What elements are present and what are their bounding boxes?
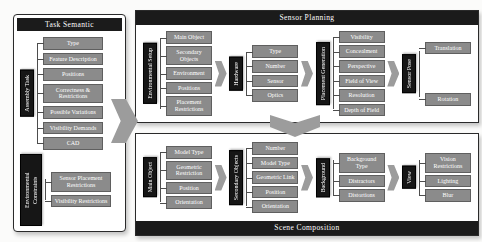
stage-secondary-objects: Secondary ObjectsNumberModel TypeGeometr… [229,142,298,213]
stage-sensor-pose: Sensor PoseTranslationRotation [402,42,471,106]
attribute-box-stack: NumberModel TypeGeometric LinkPositionOr… [252,142,298,213]
task-semantic-panel: Task Semantic Assembly TaskTypeFeature D… [13,14,126,232]
stage-background: BackgroundBackground TypeDistractorsDist… [316,153,385,201]
attribute-box-stack: TypeNumberSensorOptics [252,45,298,101]
attribute-box-field-of-view: Field of View [339,75,385,88]
attribute-box-sensor: Sensor [252,75,298,88]
attribute-box-orientation: Orientation [252,200,298,213]
stage-label: Environmental Setup [143,43,157,104]
sensor-planning-panel: Sensor Planning Environmental SetupMain … [135,10,479,123]
attribute-box-blur: Blur [425,189,471,202]
attribute-box-translation: Translation [425,42,471,55]
stage-arrow-icon [215,165,227,191]
attribute-box-distortions: Distortions [339,189,385,202]
attribute-box-vision-restrictions: Vision Restrictions [425,153,471,172]
attribute-box-positions: Positions [166,82,212,95]
stage-view: ViewVision RestrictionsLightingBlur [402,153,471,201]
stage-main-object: Main ObjectModel TypeGeometric Restricti… [143,146,212,209]
stage-label: Main Object [143,157,157,197]
attribute-box-stack: Sensor Placement RestrictionsVisibility … [51,172,111,207]
attribute-box-visibility-restrictions: Visibility Restrictions [51,195,111,208]
attribute-box-stack: TranslationRotation [425,42,471,106]
attribute-box-stack: VisibilityConcealmentPerspectiveField of… [339,31,385,117]
attribute-box-placement-restrictions: Placement Restrictions [166,96,212,115]
scene-composition-content: Main ObjectModel TypeGeometric Restricti… [136,134,478,221]
stage-placement-generation: Placement GenerationVisibilityConcealmen… [316,31,385,117]
attribute-box-environment: Environment [166,67,212,80]
attribute-box-rotation: Rotation [425,93,471,106]
task-semantic-title: Task Semantic [17,18,122,31]
attribute-box-position: Position [252,186,298,199]
stage-arrow-icon [387,61,399,87]
stage-label: Secondary Objects [229,150,243,205]
attribute-box-number: Number [252,142,298,155]
attribute-box-possible-variations: Possible Variations [43,106,103,119]
attribute-box-resolution: Resolution [339,89,385,102]
stage-arrow-icon [387,165,399,191]
attribute-box-correctness-restrictions: Correctness & Restrictions [43,84,103,103]
attribute-box-cad: CAD [43,137,103,150]
stage-label: Hardware [229,57,243,91]
stage-label: Assembly Task [20,70,34,117]
stage-label: Environmental Constraints [20,154,42,226]
attribute-box-lighting: Lighting [425,175,471,188]
stage-arrow-icon [215,61,227,87]
attribute-box-distractors: Distractors [339,175,385,188]
attribute-box-orientation: Orientation [166,196,212,209]
attribute-box-visibility-demands: Visibility Demands [43,122,103,135]
attribute-box-visibility: Visibility [339,31,385,44]
stage-label: Sensor Pose [402,54,416,93]
scene-composition-panel: Scene Composition Main ObjectModel TypeG… [135,133,479,236]
attribute-box-stack: Model TypeGeometric RestrictionPositionO… [166,146,212,209]
stage-arrow-icon [301,61,313,87]
stage-arrow-icon [301,165,313,191]
attribute-box-model-type: Model Type [252,157,298,170]
attribute-box-background-type: Background Type [339,153,385,172]
attribute-box-stack: Background TypeDistractorsDistortions [339,153,385,201]
stage-hardware: HardwareTypeNumberSensorOptics [229,45,298,101]
attribute-box-main-object: Main Object [166,31,212,44]
sensor-planning-content: Environmental SetupMain ObjectSecondary … [136,25,478,122]
attribute-box-position: Position [166,182,212,195]
attribute-box-concealment: Concealment [339,45,385,58]
attribute-box-optics: Optics [252,89,298,102]
attribute-box-stack: Vision RestrictionsLightingBlur [425,153,471,201]
task-semantic-content: Assembly TaskTypeFeature DescriptionPosi… [14,31,125,231]
scene-composition-title: Scene Composition [136,221,478,235]
attribute-box-perspective: Perspective [339,60,385,73]
attribute-box-positions: Positions [43,68,103,81]
stage-label: Placement Generation [316,42,330,105]
attribute-box-depth-of-field: Depth of Field [339,104,385,117]
stage-environmental-setup: Environmental SetupMain ObjectSecondary … [143,31,212,115]
attribute-box-type: Type [43,37,103,50]
attribute-box-geometric-link: Geometric Link [252,171,298,184]
stage-assembly-task: Assembly TaskTypeFeature DescriptionPosi… [20,37,119,150]
attribute-box-model-type: Model Type [166,146,212,159]
attribute-box-number: Number [252,60,298,73]
sensor-planning-title: Sensor Planning [136,11,478,25]
attribute-box-feature-description: Feature Description [43,53,103,66]
attribute-box-secondary-objects: Secondary Objects [166,46,212,65]
stage-environmental-constraints: Environmental ConstraintsSensor Placemen… [20,154,119,226]
stage-label: Background [316,158,330,197]
attribute-box-type: Type [252,45,298,58]
attribute-box-geometric-restriction: Geometric Restriction [166,161,212,180]
attribute-box-stack: TypeFeature DescriptionPositionsCorrectn… [43,37,103,150]
stage-label: View [402,166,416,189]
attribute-box-sensor-placement-restrictions: Sensor Placement Restrictions [51,172,111,191]
attribute-box-stack: Main ObjectSecondary ObjectsEnvironmentP… [166,31,212,115]
